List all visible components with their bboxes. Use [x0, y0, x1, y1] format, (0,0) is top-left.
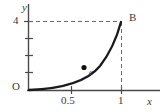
- graph-figure: y x O 4 0.5 1 B c: [0, 0, 164, 112]
- point-b-label: B: [129, 12, 136, 23]
- curve-path: [29, 22, 121, 90]
- point-c-label: c: [89, 68, 93, 77]
- y-axis-label: y: [22, 2, 27, 13]
- origin-label: O: [12, 81, 20, 92]
- plot-canvas: [0, 0, 164, 112]
- x-axis-label: x: [147, 96, 152, 107]
- x-tick-label-one: 1: [118, 95, 124, 106]
- y-tick-label-4: 4: [13, 15, 19, 26]
- x-tick-label-half: 0.5: [61, 95, 75, 106]
- point-c-marker: [81, 65, 86, 70]
